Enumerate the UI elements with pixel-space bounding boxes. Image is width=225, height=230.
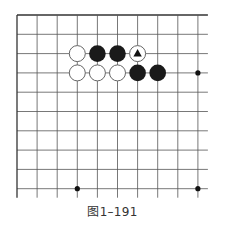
black-stone xyxy=(109,45,126,62)
black-stone xyxy=(129,65,146,82)
star-point xyxy=(195,70,200,75)
white-stone xyxy=(69,65,85,81)
white-stone xyxy=(89,65,105,81)
star-point xyxy=(195,186,200,191)
figure-caption: 图1–191 xyxy=(0,202,225,219)
star-point xyxy=(75,186,80,191)
black-stone xyxy=(89,45,106,62)
white-stone xyxy=(110,65,126,81)
black-stone xyxy=(149,65,166,82)
go-board xyxy=(0,0,225,200)
board-grid xyxy=(17,15,208,198)
white-stone xyxy=(69,46,85,62)
